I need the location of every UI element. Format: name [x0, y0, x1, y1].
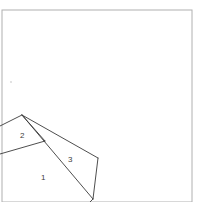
figure-canvas: 1 2 3: [0, 0, 204, 202]
page-background: [0, 0, 204, 202]
region-label-2: 2: [20, 131, 25, 140]
region-label-3: 3: [68, 155, 73, 164]
faint-speck: [10, 81, 12, 83]
line-drawing-figure: 1 2 3: [0, 0, 204, 202]
region-label-1: 1: [41, 173, 46, 182]
